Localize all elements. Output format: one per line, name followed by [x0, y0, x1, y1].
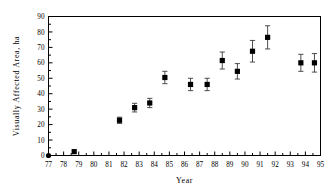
data-point	[205, 78, 210, 90]
marker-square	[312, 60, 317, 65]
data-point	[162, 71, 167, 83]
marker-square	[162, 75, 167, 80]
y-axis-tick-label: 30	[37, 106, 45, 114]
x-axis-tick-label: 92	[272, 161, 280, 169]
x-axis-tick-label: 87	[196, 161, 204, 169]
x-axis-title: Year	[176, 176, 193, 185]
data-point	[46, 153, 51, 158]
data-point	[312, 54, 317, 73]
marker-square	[235, 69, 240, 74]
x-axis-tick-label: 84	[151, 161, 159, 169]
data-point	[117, 117, 122, 123]
y-axis-tick-label: 50	[37, 75, 45, 83]
marker-square	[265, 35, 270, 40]
marker-circle	[46, 153, 51, 158]
x-axis-tick-label: 85	[166, 161, 174, 169]
data-point	[132, 103, 137, 112]
data-point	[235, 64, 240, 79]
y-axis-tick-label: 10	[37, 137, 45, 145]
marker-square	[220, 58, 225, 63]
x-axis-tick-label: 77	[45, 161, 53, 169]
y-axis-tick-label: 40	[37, 90, 45, 98]
data-point	[72, 149, 77, 154]
marker-square	[117, 118, 122, 123]
x-axis-tick-label: 93	[287, 161, 295, 169]
x-axis-tick-label: 82	[120, 161, 128, 169]
y-axis-title: Visually Affected Area, ha	[12, 36, 21, 136]
x-axis-tick-label: 91	[256, 161, 264, 169]
x-axis-tick-label: 81	[105, 161, 113, 169]
chart-figure: 0102030405060708090777879808182838485868…	[0, 0, 336, 191]
y-axis-tick-label: 70	[37, 44, 45, 52]
y-axis-tick-label: 80	[37, 29, 45, 37]
marker-square	[188, 82, 193, 87]
marker-square	[132, 105, 137, 110]
y-axis-tick-label: 60	[37, 59, 45, 67]
x-axis-tick-label: 95	[317, 161, 325, 169]
data-point	[250, 40, 255, 62]
x-axis-tick-label: 94	[302, 161, 310, 169]
y-axis-tick-label: 90	[37, 13, 45, 21]
y-axis-tick-label: 0	[41, 152, 45, 160]
marker-square	[250, 49, 255, 54]
data-point	[298, 54, 303, 71]
x-axis-tick-label: 89	[226, 161, 234, 169]
x-axis-tick-label: 80	[90, 161, 98, 169]
data-point	[147, 98, 152, 107]
x-axis-tick-label: 90	[241, 161, 249, 169]
data-point	[188, 78, 193, 90]
x-axis-tick-label: 79	[75, 161, 83, 169]
x-axis-tick-label: 86	[181, 161, 189, 169]
marker-square	[72, 149, 77, 154]
x-axis-tick-label: 88	[211, 161, 219, 169]
data-point	[220, 52, 225, 69]
y-axis-tick-label: 20	[37, 121, 45, 129]
scatter-plot-canvas: 0102030405060708090777879808182838485868…	[0, 0, 336, 191]
plot-frame	[49, 17, 321, 156]
data-point	[265, 26, 270, 49]
marker-square	[147, 100, 152, 105]
marker-square	[298, 60, 303, 65]
marker-square	[205, 82, 210, 87]
x-axis-tick-label: 78	[60, 161, 68, 169]
x-axis-tick-label: 83	[136, 161, 144, 169]
